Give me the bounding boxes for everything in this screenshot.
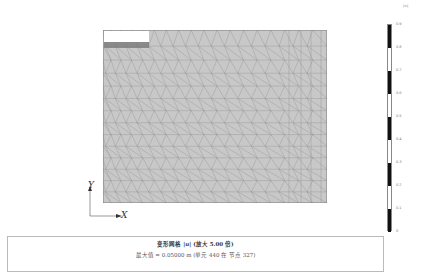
colorbar-segment xyxy=(388,163,391,186)
deformed-mesh-plot xyxy=(103,30,327,203)
colorbar-tick-label: 0.5 xyxy=(396,114,402,118)
colorbar-tick-label: 0.1 xyxy=(396,206,402,210)
colorbar-tick-label: 0.3 xyxy=(396,160,402,164)
caption-title: 变形网格 |u| (放大 5.00 倍) xyxy=(8,240,383,248)
colorbar-segment xyxy=(388,140,391,163)
colorbar-tick-label: 0.2 xyxy=(396,183,402,187)
axis-y-label: Y xyxy=(88,180,94,190)
colorbar-tick-label: 0.7 xyxy=(396,68,402,72)
colorbar-tick-label: 0.4 xyxy=(396,137,402,141)
colorbar-segment xyxy=(388,48,391,71)
colorbar-segment xyxy=(388,25,391,48)
colorbar-segment xyxy=(388,94,391,117)
colorbar-tick-label: 0.6 xyxy=(396,91,402,95)
plot-caption-box: 变形网格 |u| (放大 5.00 倍) 最大值 = 0.05000 m (单元… xyxy=(7,236,384,272)
caption-max-value: 最大值 = 0.05000 m (单元 440 在 节点 327) xyxy=(8,251,383,259)
mesh-canvas xyxy=(103,30,327,203)
colorbar-tick-label: 0 xyxy=(396,229,398,233)
axis-x-label: X xyxy=(121,210,127,220)
colorbar-tick-label: 0.9 xyxy=(396,22,402,26)
colorbar-legend xyxy=(387,24,392,231)
colorbar-unit-label: [m] xyxy=(403,4,408,8)
colorbar-segment xyxy=(388,209,391,232)
colorbar-segment xyxy=(388,71,391,94)
caption-scale-factor: 5.00 xyxy=(210,241,223,247)
colorbar-tick-label: 0.8 xyxy=(396,45,402,49)
colorbar-segment xyxy=(388,186,391,209)
colorbar-segment xyxy=(388,117,391,140)
